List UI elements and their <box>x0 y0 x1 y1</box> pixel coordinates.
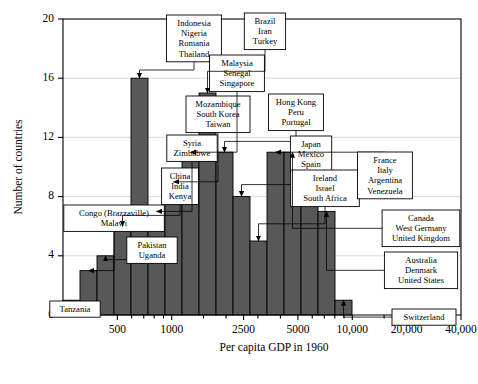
annotation-label: South Africa <box>303 193 347 203</box>
annotation-label: Mexico <box>298 149 324 159</box>
annotation-label: Kenya <box>169 191 192 201</box>
annotation-label: Hong Kong <box>276 97 317 107</box>
annotation-label: Malawi <box>101 218 128 228</box>
annotation-label: Japan <box>301 139 321 149</box>
annotation-label: Brazil <box>255 16 277 26</box>
histogram-bar <box>131 78 148 315</box>
annotation-label: Iran <box>258 26 273 36</box>
annotation-label: Taiwan <box>205 119 231 129</box>
annotation-label: Argentina <box>368 175 402 185</box>
annotation-label: Malaysia <box>221 58 253 68</box>
annotation-label: Mozambique <box>195 99 241 109</box>
annotation-label: Thailand <box>179 49 210 59</box>
x-axis-tick-label: 10,000 <box>336 323 368 336</box>
annotation-label: Congo (Brazzaville) <box>79 208 149 218</box>
annotation-label: Ireland <box>313 173 338 183</box>
annotation-label: Zimbabwe <box>174 148 211 158</box>
x-axis-tick-label: 1000 <box>160 323 183 335</box>
histogram-bar <box>250 241 267 315</box>
annotation-label: Denmark <box>405 265 438 275</box>
annotation-label: Singapore <box>220 78 255 88</box>
annotation-label: Romania <box>178 38 209 48</box>
annotation-label: Australia <box>405 255 437 265</box>
annotation-label: Peru <box>288 107 304 117</box>
x-axis-tick-label: 5000 <box>286 323 309 335</box>
annotation-label: France <box>373 155 397 165</box>
y-axis-title: Number of countries <box>12 119 24 215</box>
annotation-label: Portugal <box>281 117 311 127</box>
annotation-label: South Korea <box>196 109 239 119</box>
annotation-tanzania: Tanzania <box>50 300 100 317</box>
annotation-label: Switzerland <box>403 312 445 322</box>
y-axis-tick-label: 20 <box>43 12 55 24</box>
histogram-bar <box>267 152 284 315</box>
annotation-label: Tanzania <box>60 304 91 314</box>
annotation-label: United States <box>398 275 445 285</box>
annotation-switzerland: Switzerland <box>344 300 456 325</box>
x-axis-tick-label: 500 <box>109 323 127 335</box>
histogram-bar <box>216 152 233 315</box>
annotation-label: Indonesia <box>177 18 211 28</box>
annotation-label: Nigeria <box>181 28 207 38</box>
annotation-label: United Kingdom <box>392 233 450 243</box>
y-axis-tick-label: 8 <box>48 189 54 201</box>
annotation-label: West Germany <box>395 223 447 233</box>
annotation-label: Uganda <box>139 250 166 260</box>
y-axis-tick-label: 12 <box>43 130 55 142</box>
annotation-leader-hongkong <box>225 131 296 153</box>
annotation-leader-indonesia <box>140 62 194 78</box>
chart-canvas: 04812162050010002500500010,00020,00040,0… <box>0 0 478 384</box>
y-axis-tick-label: 4 <box>48 248 54 260</box>
y-axis-tick-label: 16 <box>43 71 55 83</box>
x-axis-title: Per capita GDP in 1960 <box>220 341 329 354</box>
annotation-label: Israel <box>315 183 335 193</box>
annotation-label: Italy <box>377 165 393 175</box>
annotation-label: India <box>171 181 189 191</box>
annotation-label: Syria <box>183 138 201 148</box>
annotation-label: Turkey <box>253 36 278 46</box>
annotation-label: Senegal <box>223 68 251 78</box>
histogram-chart: 04812162050010002500500010,00020,00040,0… <box>0 0 478 384</box>
histogram-bar <box>233 197 250 315</box>
annotation-label: China <box>170 171 191 181</box>
annotation-label: Venezuela <box>367 186 402 196</box>
x-axis-tick-label: 2500 <box>232 323 255 335</box>
annotation-label: Canada <box>408 213 434 223</box>
annotation-label: Spain <box>301 159 321 169</box>
annotation-label: Pakistan <box>137 240 167 250</box>
